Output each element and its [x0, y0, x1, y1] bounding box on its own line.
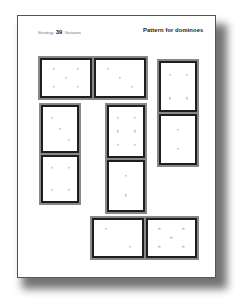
domino-half-2 — [159, 114, 197, 165]
pip-dot — [185, 74, 187, 76]
pip-dot — [131, 86, 133, 88]
pip-dot — [182, 228, 184, 230]
domino-half-5 — [40, 58, 92, 98]
domino-b — [157, 59, 199, 167]
pip-dot — [168, 97, 170, 99]
domino-d — [105, 103, 147, 214]
domino-half-2 — [107, 160, 145, 213]
domino-half-4 — [41, 155, 79, 203]
pip-dot — [133, 130, 135, 132]
pip-dot — [116, 116, 118, 118]
pip-dot — [67, 139, 69, 141]
pip-dot — [53, 86, 55, 88]
domino-a — [38, 56, 148, 100]
pip-dot — [105, 228, 107, 230]
strategy-number: 39 — [56, 29, 63, 35]
pip-dot — [158, 228, 160, 230]
pip-dot — [133, 116, 135, 118]
pip-dot — [128, 246, 130, 248]
strategy-word: Strategy — [38, 30, 54, 35]
domino-half-2 — [92, 218, 144, 258]
pip-dot — [59, 128, 61, 130]
domino-half-5 — [146, 218, 198, 258]
pip-dot — [170, 237, 172, 239]
pip-dot — [158, 246, 160, 248]
pip-dot — [168, 74, 170, 76]
pip-dot — [116, 130, 118, 132]
pip-dot — [50, 189, 52, 191]
domino-half-4 — [159, 61, 197, 112]
pip-dot — [77, 68, 79, 70]
pip-dot — [116, 144, 118, 146]
pip-dot — [185, 97, 187, 99]
pip-dot — [50, 117, 52, 119]
pip-dot — [133, 144, 135, 146]
page-title: Pattern for dominoes — [143, 27, 203, 33]
pip-dot — [107, 68, 109, 70]
domino-c — [39, 103, 81, 205]
domino-e — [90, 216, 199, 260]
pip-dot — [182, 246, 184, 248]
pip-dot — [125, 175, 127, 177]
pip-dot — [177, 148, 179, 150]
pip-dot — [125, 194, 127, 196]
strategy-label: Strategy 39 Variation — [38, 29, 81, 35]
pip-dot — [50, 167, 52, 169]
domino-half-6 — [107, 105, 145, 158]
pip-dot — [119, 77, 121, 79]
pip-dot — [53, 68, 55, 70]
domino-half-3 — [94, 58, 146, 98]
domino-half-3 — [41, 105, 79, 153]
variation-word: Variation — [65, 30, 81, 35]
pip-dot — [67, 189, 69, 191]
pip-dot — [77, 86, 79, 88]
pip-dot — [67, 167, 69, 169]
pip-dot — [177, 129, 179, 131]
pip-dot — [65, 77, 67, 79]
